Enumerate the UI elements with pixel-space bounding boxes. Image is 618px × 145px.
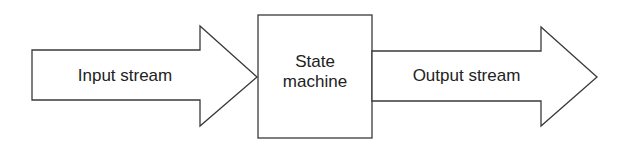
input-stream-label: Input stream (60, 66, 190, 86)
state-machine-label-line2: machine (258, 72, 372, 92)
state-machine-label: State machine (258, 52, 372, 92)
state-machine-diagram: Input stream State machine Output stream (0, 0, 618, 145)
output-stream-label: Output stream (394, 66, 539, 86)
state-machine-label-line1: State (258, 52, 372, 72)
